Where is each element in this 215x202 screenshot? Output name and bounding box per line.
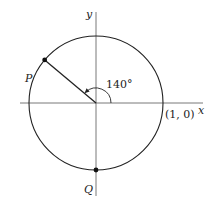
x-axis-label: x: [198, 104, 205, 117]
angle-label: 140°: [106, 78, 133, 91]
radius-to-p: [45, 60, 96, 103]
y-axis-label: y: [85, 8, 93, 21]
angle-arrowhead-icon: [85, 88, 90, 93]
point-q-label: Q: [84, 183, 93, 196]
unit-circle-diagram: y x (1, 0) P Q 140°: [0, 0, 215, 202]
point-p-label: P: [24, 72, 33, 85]
point-q: [94, 168, 99, 173]
point-p: [42, 58, 47, 63]
reference-point-label: (1, 0): [165, 108, 195, 121]
